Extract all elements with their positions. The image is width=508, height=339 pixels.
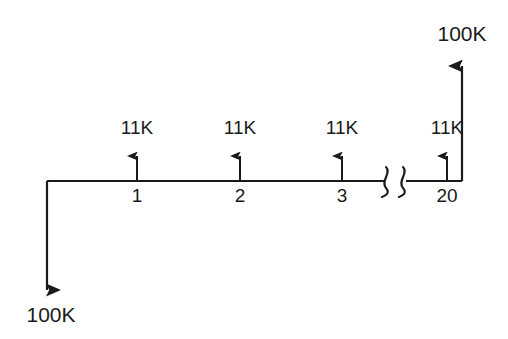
stage-label-1: 11K xyxy=(121,118,153,137)
squiggle-break-icon xyxy=(382,167,405,197)
tick-label-3: 3 xyxy=(337,186,348,205)
stage-label-3: 11K xyxy=(326,118,358,137)
tick-label-20: 20 xyxy=(436,186,457,205)
diagram-canvas: 11K 11K 11K 11K 1 2 3 20 100K 100K xyxy=(0,0,508,339)
input-terminal-label: 100K xyxy=(26,304,75,325)
output-terminal-label: 100K xyxy=(437,23,486,44)
stage-label-20: 11K xyxy=(431,118,463,137)
tick-label-2: 2 xyxy=(235,186,246,205)
timeline-diagram xyxy=(0,0,508,339)
tick-label-1: 1 xyxy=(132,186,143,205)
stage-label-2: 11K xyxy=(224,118,256,137)
